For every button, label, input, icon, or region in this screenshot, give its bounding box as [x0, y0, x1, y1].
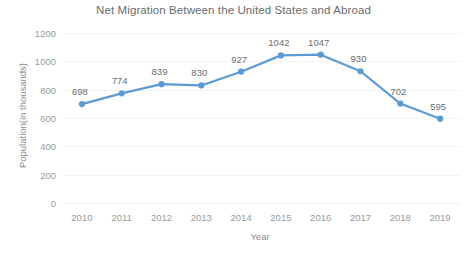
y-tick-label: 400: [22, 141, 56, 152]
data-point-marker: [397, 100, 403, 106]
data-label: 595: [418, 101, 458, 112]
y-tick-label: 0: [22, 198, 56, 209]
y-tick-label: 1200: [22, 28, 56, 39]
x-tick-label: 2010: [62, 212, 102, 223]
data-point-marker: [198, 82, 204, 88]
x-tick-label: 2011: [102, 212, 142, 223]
x-axis-title: Year: [60, 231, 460, 242]
data-point-marker: [238, 69, 244, 75]
line-chart: Net Migration Between the United States …: [0, 0, 467, 253]
data-point-marker: [278, 52, 284, 58]
y-tick-label: 800: [22, 84, 56, 95]
gridline: [62, 203, 460, 204]
data-point-marker: [158, 81, 164, 87]
data-label: 927: [219, 54, 259, 65]
chart-title: Net Migration Between the United States …: [0, 4, 467, 16]
x-tick-label: 2017: [341, 212, 381, 223]
x-tick-label: 2015: [261, 212, 301, 223]
x-tick-label: 2016: [301, 212, 341, 223]
data-label: 698: [60, 86, 100, 97]
x-tick-label: 2019: [420, 212, 460, 223]
data-label: 839: [140, 66, 180, 77]
plot-area: 69877483983092710421047930702595: [62, 33, 460, 203]
x-tick-label: 2012: [142, 212, 182, 223]
x-tick-label: 2018: [380, 212, 420, 223]
data-point-marker: [79, 101, 85, 107]
data-point-marker: [119, 90, 125, 96]
data-label: 830: [179, 67, 219, 78]
y-tick-label: 200: [22, 169, 56, 180]
y-tick-label: 1000: [22, 56, 56, 67]
data-label: 1042: [259, 37, 299, 48]
data-label: 702: [378, 86, 418, 97]
data-label: 774: [100, 75, 140, 86]
data-point-marker: [437, 116, 443, 122]
y-tick-label: 600: [22, 113, 56, 124]
series-line: [62, 33, 460, 203]
data-point-marker: [357, 68, 363, 74]
data-point-marker: [318, 52, 324, 58]
x-tick-label: 2014: [221, 212, 261, 223]
x-tick-label: 2013: [181, 212, 221, 223]
data-label: 1047: [299, 37, 339, 48]
data-label: 930: [339, 53, 379, 64]
